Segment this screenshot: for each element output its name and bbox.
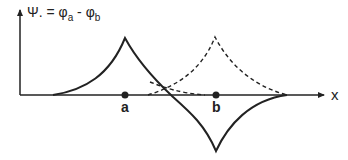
potential-diagram (0, 0, 348, 160)
psi-symbol: Ψ. (27, 4, 43, 20)
dashed-curve-phi-b (148, 37, 287, 95)
phi-a-symbol: φ (59, 4, 68, 20)
phi-b-symbol: φ (86, 4, 95, 20)
y-axis-title: Ψ. = φa - φb (27, 4, 100, 23)
point-a-label: a (121, 99, 129, 115)
x-axis-label: x (331, 86, 339, 103)
point-a (122, 92, 129, 99)
point-b-label: b (212, 99, 221, 115)
dashed-curve-phi-a-tail (150, 82, 205, 95)
point-b (213, 92, 220, 99)
